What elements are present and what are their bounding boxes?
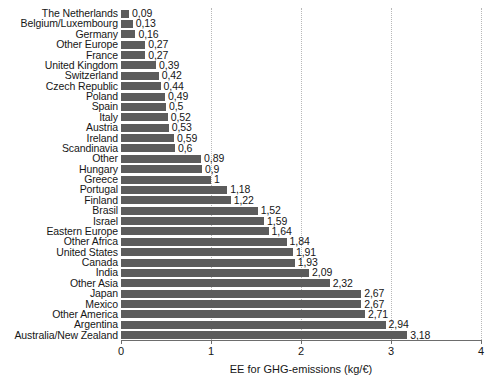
bar-value-label: 2,94 [389,319,409,330]
bar [121,124,169,132]
x-tick-label: 1 [208,345,214,358]
bar [121,51,145,59]
x-tick-label: 2 [298,345,304,358]
bar-value-label: 3,18 [410,330,430,341]
bar [121,113,168,121]
bar-value-label: 1,22 [234,195,254,206]
x-tick-0 [121,340,122,344]
bar [121,165,202,173]
bar-value-label: 2,71 [368,309,388,320]
bar [121,269,309,277]
bar [121,41,145,49]
x-axis-title: EE for GHG-emissions (kg/€) [121,363,481,376]
bar [121,61,156,69]
bar [121,196,231,204]
x-tick-3 [391,340,392,344]
bar [121,290,361,298]
bar [121,186,227,194]
bar [121,72,159,80]
bar [121,248,293,256]
x-tick-label: 3 [388,345,394,358]
bar-value-label: 1,64 [272,226,292,237]
bar [121,10,129,18]
bar [121,207,258,215]
bar [121,331,407,339]
bar [121,227,269,235]
bar [121,259,295,267]
bar-value-label: 1 [214,174,220,185]
bar-value-label: 0,6 [178,143,192,154]
x-tick-label: 0 [118,345,124,358]
bar [121,144,175,152]
category-label: Australia/New Zealand [0,330,118,341]
bar [121,321,386,329]
x-tick-1 [211,340,212,344]
bar [121,300,361,308]
bar [121,103,166,111]
bar [121,238,287,246]
bar [121,310,365,318]
bar [121,93,165,101]
bar-rows: The Netherlands0,09Belgium/Luxembourg0,1… [0,0,494,332]
bar [121,82,161,90]
bar [121,20,133,28]
bar [121,176,211,184]
x-tick-label: 4 [478,345,484,358]
x-tick-4 [481,340,482,344]
x-tick-2 [301,340,302,344]
bar [121,30,135,38]
bar [121,134,174,142]
bar [121,279,330,287]
bar [121,155,201,163]
ghg-emissions-bar-chart: The Netherlands0,09Belgium/Luxembourg0,1… [0,0,494,391]
bar-value-label: 2,09 [312,267,332,278]
bar [121,217,264,225]
bar-value-label: 2,32 [333,278,353,289]
